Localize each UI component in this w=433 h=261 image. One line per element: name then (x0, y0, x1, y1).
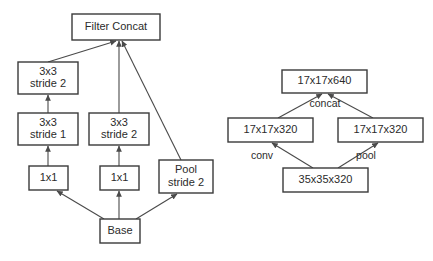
node-label-in-35x35x320: 35x35x320 (299, 173, 353, 185)
node-label-conv-3x3-stride-1: stride 1 (30, 128, 66, 140)
node-label-conv-1x1-middle: 1x1 (111, 171, 129, 183)
node-conv-3x3-stride-1: 3x3stride 1 (18, 113, 78, 145)
node-conv-1x1-middle: 1x1 (100, 166, 139, 190)
node-out-17x17x640: 17x17x640 (282, 70, 367, 93)
node-label-pool-stride-2: Pool (175, 163, 197, 175)
label-concat: concat (310, 97, 341, 109)
node-label-filter-concat: Filter Concat (85, 20, 147, 32)
node-label-conv-3x3-stride-2-left: stride 2 (30, 77, 66, 89)
node-base: Base (100, 219, 140, 243)
node-in-35x35x320: 35x35x320 (283, 168, 368, 192)
label-pool: pool (356, 149, 376, 161)
node-conv-3x3-stride-2-middle: 3x3stride 2 (89, 113, 149, 145)
network-architecture-diagram: Filter Concat3x3stride 23x3stride 11x13x… (0, 0, 433, 261)
node-branch-right-17x17x320: 17x17x320 (338, 118, 423, 142)
node-label-out-17x17x640: 17x17x640 (298, 74, 352, 86)
node-branch-left-17x17x320: 17x17x320 (228, 118, 313, 142)
node-label-conv-3x3-stride-2-left: 3x3 (39, 65, 57, 77)
node-conv-1x1-left: 1x1 (29, 166, 68, 190)
node-label-conv-3x3-stride-2-middle: 3x3 (110, 116, 128, 128)
node-label-branch-left-17x17x320: 17x17x320 (244, 123, 298, 135)
node-label-base: Base (107, 224, 132, 236)
node-filter-concat: Filter Concat (72, 14, 160, 40)
label-conv: conv (251, 149, 274, 161)
node-pool-stride-2: Poolstride 2 (159, 160, 213, 193)
node-label-pool-stride-2: stride 2 (168, 176, 204, 188)
node-conv-3x3-stride-2-left: 3x3stride 2 (18, 62, 78, 94)
node-label-conv-3x3-stride-1: 3x3 (39, 116, 57, 128)
node-label-conv-1x1-left: 1x1 (40, 171, 58, 183)
node-label-branch-right-17x17x320: 17x17x320 (354, 123, 408, 135)
node-label-conv-3x3-stride-2-middle: stride 2 (101, 128, 137, 140)
